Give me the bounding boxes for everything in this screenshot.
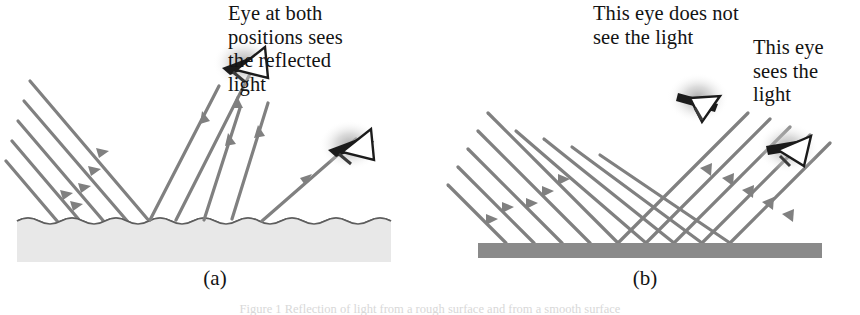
callout-b-sees-light-text: This eye sees the light	[753, 36, 858, 107]
panel-a-label: (a)	[0, 266, 430, 291]
eye-lower-right-a	[319, 120, 381, 170]
rough-surface-redraw	[17, 218, 391, 262]
panel-b-specular-reflection: This eye does not see the light This eye…	[430, 0, 860, 315]
callout-a-text: Eye at both positions sees the reflected…	[228, 2, 388, 96]
smooth-surface	[478, 243, 822, 258]
panel-b-label: (b)	[430, 266, 860, 291]
page-caption-faint: Figure 1 Reflection of light from a roug…	[0, 302, 860, 315]
eye-on-axis-b	[757, 123, 819, 173]
callout-b-no-light-text: This eye does not see the light	[593, 2, 778, 49]
reflection-figure: Eye at both positions sees the reflected…	[0, 0, 860, 315]
panel-a-diffuse-reflection: Eye at both positions sees the reflected…	[0, 0, 430, 315]
eye-off-axis-b	[667, 73, 729, 123]
incoming-rays-b-extra	[516, 131, 730, 243]
